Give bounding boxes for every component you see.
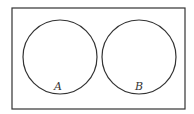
set-a-label: A bbox=[53, 80, 62, 93]
venn-diagram: A B bbox=[0, 0, 194, 114]
set-b-label: B bbox=[134, 80, 143, 93]
universal-set-rectangle bbox=[12, 8, 185, 109]
